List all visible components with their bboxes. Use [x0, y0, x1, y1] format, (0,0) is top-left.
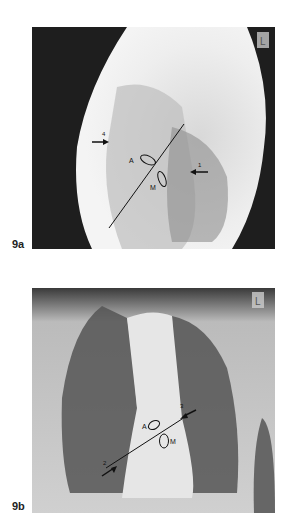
radiograph-frontal: L A M 3 2: [32, 288, 275, 513]
radiograph-lateral: L A M 4 1: [32, 27, 275, 249]
valve-label-m: M: [170, 438, 176, 445]
valve-label-a: A: [129, 157, 134, 164]
panel-label-9a: 9a: [12, 238, 24, 250]
valve-label-m: M: [150, 184, 156, 191]
panel-label-9b: 9b: [12, 500, 25, 512]
valve-label-a: A: [142, 423, 147, 430]
side-marker: L: [255, 296, 261, 307]
side-marker: L: [260, 36, 266, 47]
